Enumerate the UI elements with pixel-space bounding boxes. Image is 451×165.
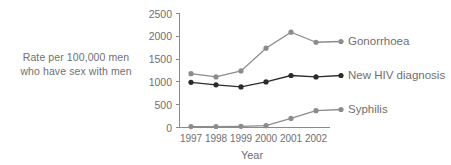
data-point xyxy=(288,116,293,121)
x-tick-labels: 1997 1998 1999 2000 2001 2002 xyxy=(180,133,328,144)
data-point xyxy=(213,124,218,129)
data-point xyxy=(288,73,293,78)
chart-svg: 2500 2000 1500 1000 500 0 1997 1998 1999… xyxy=(0,0,451,165)
x-axis-title: Year xyxy=(241,149,264,161)
data-point xyxy=(188,71,193,76)
data-point xyxy=(263,46,268,51)
data-point xyxy=(238,124,243,129)
series-label-new-hiv-diagnosis: New HIV diagnosis xyxy=(348,69,445,81)
x-tick-label-1999: 1999 xyxy=(230,133,253,144)
data-point xyxy=(288,30,293,35)
data-point xyxy=(238,84,243,89)
y-tick-labels: 2500 2000 1500 1000 500 0 xyxy=(149,8,173,134)
series-label-gonorrhoea: Gonorrhoea xyxy=(348,35,410,47)
y-tick-label-1000: 1000 xyxy=(149,76,173,88)
y-tick-label-2500: 2500 xyxy=(149,8,173,20)
y-axis-title: Rate per 100,000 men who have sex with m… xyxy=(8,50,144,78)
data-point xyxy=(188,124,193,129)
y-axis-title-line-1: Rate per 100,000 men xyxy=(8,50,144,64)
data-point xyxy=(213,74,218,79)
x-tick-label-2002: 2002 xyxy=(305,133,328,144)
series-syphilis xyxy=(188,107,343,129)
y-tick-marks xyxy=(176,14,180,128)
x-tick-label-2001: 2001 xyxy=(280,133,303,144)
x-tick-label-1997: 1997 xyxy=(180,133,203,144)
chart-axes xyxy=(180,14,331,128)
y-tick-label-1500: 1500 xyxy=(149,53,173,65)
data-point xyxy=(263,79,268,84)
data-point xyxy=(263,123,268,128)
data-point xyxy=(188,80,193,85)
x-tick-label-2000: 2000 xyxy=(255,133,278,144)
data-point xyxy=(213,82,218,87)
x-tick-label-1998: 1998 xyxy=(205,133,228,144)
y-tick-label-500: 500 xyxy=(154,99,172,111)
series-label-syphilis: Syphilis xyxy=(348,103,388,115)
data-point xyxy=(238,68,243,73)
series-gonorrhoea xyxy=(188,30,343,80)
line-chart-figure: Rate per 100,000 men who have sex with m… xyxy=(0,0,451,165)
y-tick-label-2000: 2000 xyxy=(149,30,173,42)
series-new-hiv-diagnosis xyxy=(188,73,343,90)
y-axis-title-line-2: who have sex with men xyxy=(8,64,144,78)
y-tick-label-0: 0 xyxy=(166,122,172,134)
